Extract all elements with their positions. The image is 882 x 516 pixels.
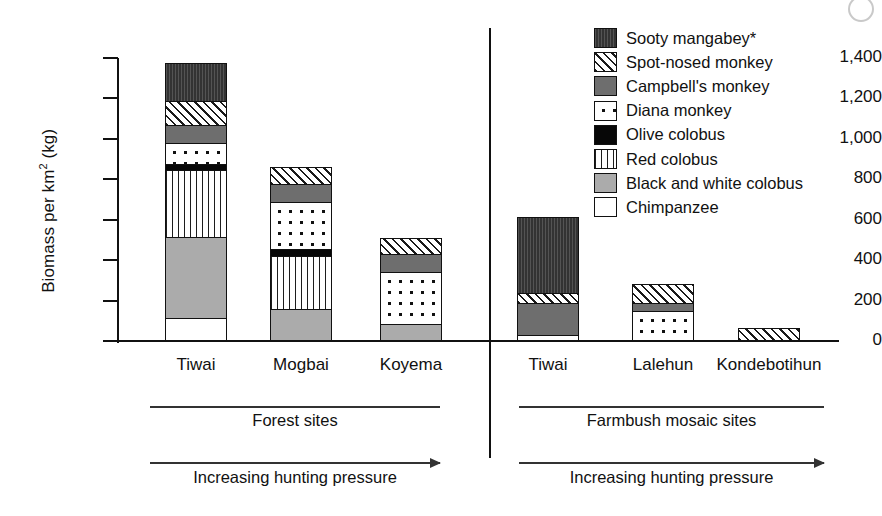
group-farmbush-caption: Farmbush mosaic sites (519, 411, 824, 430)
arrow-line (519, 462, 824, 464)
legend-item-1[interactable]: Spot-nosed monkey (594, 50, 803, 74)
legend-swatch-solid-black (594, 125, 617, 145)
y-axis-tick (103, 97, 118, 99)
bar-segment-solid-gray[interactable] (271, 184, 331, 202)
bar-segment-light-gray[interactable] (271, 309, 331, 340)
legend-label: Diana monkey (626, 101, 731, 120)
bar-segment-white-dots[interactable] (166, 143, 226, 164)
forest-hunting-pressure-caption: Increasing hunting pressure (150, 468, 440, 487)
legend-item-4[interactable]: Olive colobus (594, 123, 803, 147)
legend-item-3[interactable]: Diana monkey (594, 99, 803, 123)
bar-segment-diagonal-hatch[interactable] (381, 239, 441, 254)
corner-mark (848, 0, 874, 22)
legend-label: Campbell's monkey (626, 77, 769, 96)
y-axis-title-suffix: (kg) (39, 129, 58, 164)
y-axis-tick (103, 57, 118, 59)
arrow-head-icon (430, 458, 441, 468)
bar-segment-solid-black[interactable] (271, 249, 331, 256)
legend-label: Red colobus (626, 150, 718, 169)
legend-swatch-white (594, 197, 617, 217)
y-axis-title: Biomass per km2 (kg) (37, 71, 59, 351)
legend-swatch-vertical-stripes (594, 149, 617, 169)
bar-segment-diagonal-hatch[interactable] (633, 285, 693, 303)
x-axis-label-kondebotihun-5: Kondebotihun (699, 355, 839, 375)
bar-segment-diagonal-hatch[interactable] (739, 329, 799, 340)
bar-tiwai-0[interactable] (165, 63, 227, 341)
forest-hunting-pressure-arrow: Increasing hunting pressure (150, 462, 440, 487)
bar-segment-light-gray[interactable] (166, 237, 226, 318)
arrow-head-icon (814, 458, 825, 468)
bar-tiwai-3[interactable] (517, 217, 579, 341)
legend-item-0[interactable]: Sooty mangabey* (594, 26, 803, 50)
arrow-line (150, 462, 440, 464)
bar-segment-solid-gray[interactable] (381, 254, 441, 272)
bar-segment-light-gray[interactable] (381, 324, 441, 340)
bar-segment-vertical-stripes[interactable] (271, 256, 331, 309)
legend-item-5[interactable]: Red colobus (594, 147, 803, 171)
legend-label: Sooty mangabey* (626, 29, 756, 48)
bar-segment-dark-dotted-fill[interactable] (518, 218, 578, 294)
group-rule (150, 406, 440, 408)
bar-segment-diagonal-hatch[interactable] (271, 168, 331, 184)
legend-swatch-white-dots (594, 101, 617, 121)
legend-swatch-solid-gray (594, 76, 617, 96)
legend-item-7[interactable]: Chimpanzee (594, 195, 803, 219)
panel-divider (489, 28, 491, 458)
legend-label: Olive colobus (626, 125, 725, 144)
bar-segment-solid-gray[interactable] (633, 303, 693, 311)
y-axis-tick (103, 259, 118, 261)
legend: Sooty mangabey*Spot-nosed monkeyCampbell… (594, 26, 803, 220)
bar-segment-vertical-stripes[interactable] (166, 170, 226, 236)
bar-segment-solid-gray[interactable] (518, 303, 578, 335)
legend-swatch-light-gray (594, 173, 617, 193)
y-axis-title-prefix: Biomass per km (39, 170, 58, 293)
group-forest-caption: Forest sites (150, 411, 440, 430)
bar-mogbai-1[interactable] (270, 167, 332, 341)
chart-figure: Biomass per km2 (kg) 1,4001,2001,0008006… (0, 0, 882, 516)
y-axis-tick (103, 178, 118, 180)
bar-koyema-2[interactable] (380, 238, 442, 341)
bar-segment-white-dots[interactable] (381, 272, 441, 325)
bar-segment-white[interactable] (166, 318, 226, 340)
bar-segment-dark-dotted-fill[interactable] (166, 64, 226, 101)
bar-segment-white-dots[interactable] (518, 335, 578, 340)
farmbush-hunting-pressure-arrow: Increasing hunting pressure (519, 462, 824, 487)
bar-segment-diagonal-hatch[interactable] (166, 101, 226, 125)
bar-segment-solid-gray[interactable] (166, 125, 226, 143)
legend-swatch-diagonal-hatch (594, 52, 617, 72)
x-axis-label-koyema-2: Koyema (341, 355, 481, 375)
group-forest-sites: Forest sites (150, 406, 440, 430)
legend-item-2[interactable]: Campbell's monkey (594, 74, 803, 98)
bar-kondebotihun-5[interactable] (738, 328, 800, 341)
legend-swatch-dark-dotted-fill (594, 28, 617, 48)
y-axis-tick (103, 340, 118, 342)
legend-label: Black and white colobus (626, 174, 803, 193)
bar-segment-white-dots[interactable] (633, 311, 693, 340)
group-farmbush-sites: Farmbush mosaic sites (519, 406, 824, 430)
bar-segment-white-dots[interactable] (271, 202, 331, 249)
y-axis-tick (103, 300, 118, 302)
farmbush-hunting-pressure-caption: Increasing hunting pressure (519, 468, 824, 487)
legend-label: Spot-nosed monkey (626, 53, 773, 72)
y-axis-tick (103, 219, 118, 221)
group-rule (519, 406, 824, 408)
bar-segment-diagonal-hatch[interactable] (518, 293, 578, 303)
y-axis-tick (103, 138, 118, 140)
legend-label: Chimpanzee (626, 198, 719, 217)
legend-item-6[interactable]: Black and white colobus (594, 171, 803, 195)
bar-lalehun-4[interactable] (632, 284, 694, 341)
y-axis-title-superscript: 2 (37, 163, 49, 169)
